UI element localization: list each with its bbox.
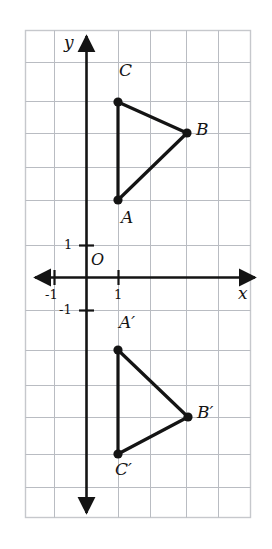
tick-label-x-neg1: -1 <box>45 288 58 301</box>
point-label-b-prime: B′ <box>197 404 213 421</box>
point-label-c: C <box>119 62 132 79</box>
tick-label-y-1: 1 <box>64 238 72 251</box>
x-axis-label: x <box>238 285 248 302</box>
point-label-a: A <box>121 209 133 226</box>
vertex-a-prime <box>113 345 122 354</box>
tick-label-y-neg1: -1 <box>59 303 72 316</box>
coordinate-plane-figure: y x O 1 -1 -1 1 C B A A′ B′ C′ <box>0 0 272 549</box>
vertex-c-prime <box>113 449 122 458</box>
point-label-c-prime: C′ <box>115 461 132 478</box>
tick-label-x-1: 1 <box>114 288 122 301</box>
vertex-c <box>113 97 122 106</box>
y-axis-label: y <box>64 34 74 51</box>
plot-canvas <box>0 0 272 549</box>
vertex-b <box>182 128 191 137</box>
vertex-b-prime <box>183 412 192 421</box>
origin-label: O <box>91 252 104 268</box>
vertex-a <box>113 195 122 204</box>
point-label-b: B <box>196 121 209 138</box>
point-label-a-prime: A′ <box>119 314 135 331</box>
